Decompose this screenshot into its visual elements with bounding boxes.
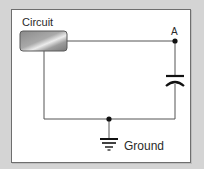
node-a-label: A [171, 27, 178, 37]
circuit-label: Circuit [22, 17, 53, 28]
ground-node-dot [106, 116, 111, 121]
ground-label: Ground [124, 140, 164, 152]
circuit-block [20, 31, 67, 51]
ground-icon [100, 139, 118, 150]
node-a-dot [172, 38, 177, 43]
wires [44, 41, 175, 139]
